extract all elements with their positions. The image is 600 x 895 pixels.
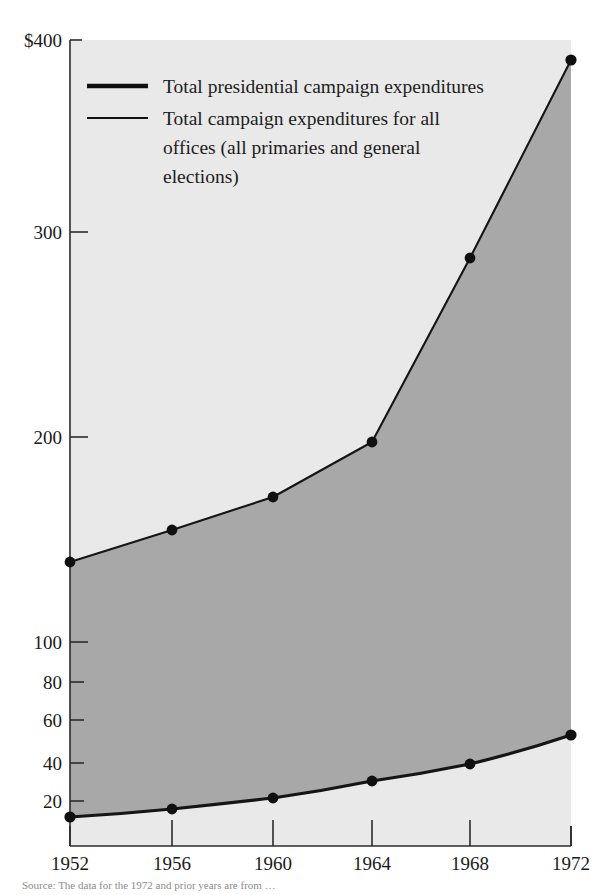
data-point [268,793,279,804]
x-tick-label-1968: 1968 [451,853,489,874]
y-tick-labels: $400 300 200 100 80 60 40 20 [24,30,62,812]
data-point [565,54,576,65]
y-tick-label-80: 80 [43,672,62,693]
x-tick-label-1956: 1956 [153,853,191,874]
x-tick-label-1964: 1964 [353,853,392,874]
data-point [65,557,76,568]
data-point [367,776,378,787]
figure-container: $400 300 200 100 80 60 40 20 1952 1956 1… [0,0,600,895]
y-tick-label-20: 20 [43,791,62,812]
data-point [465,253,476,264]
y-tick-label-400: $400 [24,30,62,51]
data-point [167,525,178,536]
source-caption: Source: The data for the 1972 and prior … [22,879,582,892]
data-point [565,729,576,740]
y-tick-label-300: 300 [34,222,63,243]
y-tick-label-40: 40 [43,753,62,774]
x-tick-label-1972: 1972 [552,853,590,874]
data-point [64,811,75,822]
x-tick-labels: 1952 1956 1960 1964 1968 1972 [51,853,590,874]
legend-label-all-offices-line1: Total campaign expenditures for all [163,108,441,129]
chart-bands [70,40,571,846]
data-point [465,759,476,770]
y-tick-label-100: 100 [34,632,63,653]
data-point [367,437,378,448]
x-tick-label-1952: 1952 [51,853,89,874]
legend-label-all-offices-line2: offices (all primaries and general [163,137,421,159]
legend-label-presidential: Total presidential campaign expenditures [163,76,484,97]
y-tick-label-200: 200 [34,427,63,448]
data-point [167,804,178,815]
expenditures-chart: $400 300 200 100 80 60 40 20 1952 1956 1… [0,0,600,895]
data-point [268,492,279,503]
legend-label-all-offices-line3: elections) [163,166,239,188]
y-tick-label-60: 60 [43,710,62,731]
x-tick-label-1960: 1960 [254,853,292,874]
